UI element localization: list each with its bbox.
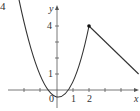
- x-tick-label-2: 2: [87, 94, 92, 104]
- function-graph: [0, 0, 140, 111]
- endpoint-dot: [87, 24, 91, 28]
- x-axis-arrow-icon: [134, 88, 139, 92]
- y-axis-label: y: [49, 4, 53, 14]
- x-tick-label-0: 0: [49, 94, 54, 104]
- parabola-curve: [19, 0, 89, 97]
- x-axis-label: x: [134, 94, 138, 104]
- x-tick-label-1: 1: [71, 94, 76, 104]
- y-tick-label-1: 1: [48, 69, 53, 79]
- y-axis-arrow-icon: [55, 5, 59, 10]
- line-segment: [89, 26, 139, 74]
- y-tick-label-4: 4: [47, 21, 52, 31]
